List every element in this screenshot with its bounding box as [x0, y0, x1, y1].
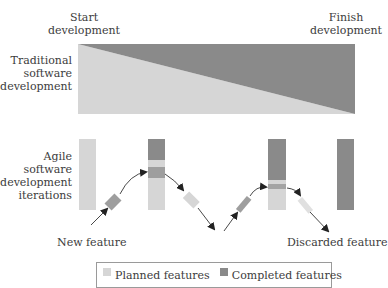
finish-label: Finish development	[306, 11, 386, 37]
start-label: Start development	[44, 11, 124, 37]
planned-swatch-icon	[103, 268, 111, 276]
finish-label-line1: Finish	[306, 11, 386, 24]
feature-box-4	[298, 197, 314, 214]
agile-label: Agile software development iterations	[0, 150, 72, 202]
iteration-bar-2	[148, 139, 165, 210]
traditional-timeline	[78, 44, 355, 114]
completed-swatch-icon	[220, 268, 228, 276]
legend-planned-label: Planned features	[115, 269, 210, 282]
iteration-bar-1	[79, 139, 96, 210]
iteration-bar-3	[268, 139, 286, 210]
new-feature-arrow	[91, 209, 107, 225]
start-label-line1: Start	[44, 11, 124, 24]
agile-label-line1: Agile	[0, 150, 72, 163]
discarded-feature-arrow	[310, 212, 328, 231]
agile-label-line3: development	[0, 176, 72, 189]
legend-completed-label: Completed features	[232, 269, 342, 282]
agile-label-line4: iterations	[0, 189, 72, 202]
feature-flow	[91, 172, 328, 231]
feature-box-3	[236, 196, 252, 213]
traditional-label: Traditional software development	[0, 54, 72, 93]
feature-box-1	[105, 194, 122, 211]
legend: Planned features Completed features	[96, 262, 332, 288]
agile-label-line2: software	[0, 163, 72, 176]
discarded-feature-label: Discarded feature	[287, 236, 387, 249]
traditional-label-line3: development	[0, 80, 72, 93]
traditional-label-line2: software	[0, 67, 72, 80]
feature-box-2	[183, 192, 200, 209]
traditional-label-line1: Traditional	[0, 54, 72, 67]
legend-item-planned: Planned features	[103, 269, 210, 282]
finish-label-line2: development	[306, 24, 386, 37]
new-feature-label: New feature	[57, 236, 126, 249]
legend-item-completed: Completed features	[220, 269, 342, 282]
agile-iterations	[79, 139, 354, 210]
start-label-line2: development	[44, 24, 124, 37]
iteration-bar-4	[337, 139, 354, 210]
